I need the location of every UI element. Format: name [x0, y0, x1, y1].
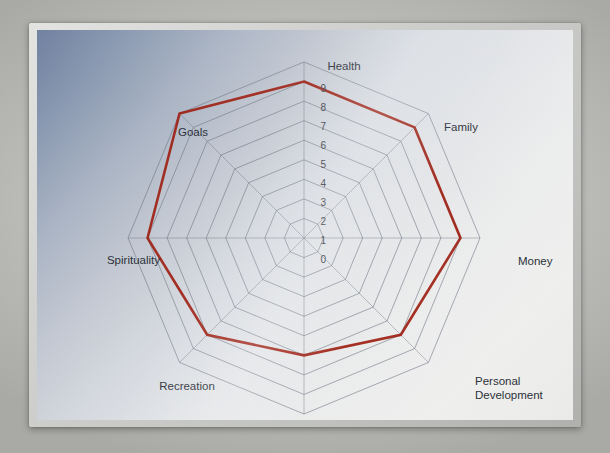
axis-label-personal: PersonalDevelopment — [475, 375, 544, 401]
axis-label-money: Money — [518, 255, 553, 267]
axis-label-goals: Goals — [178, 126, 208, 138]
radar-spokes — [128, 62, 480, 414]
tick-label-0: 0 — [320, 254, 326, 265]
axis-label-family: Family — [444, 121, 478, 133]
tick-label-7: 7 — [320, 121, 326, 132]
axis-label-recreation: Recreation — [159, 380, 215, 392]
axis-label-health: Health — [327, 60, 360, 72]
tick-label-5: 5 — [320, 159, 326, 170]
spoke-recreation — [180, 238, 304, 362]
tick-label-6: 6 — [320, 140, 326, 151]
tick-label-3: 3 — [320, 197, 326, 208]
tick-label-8: 8 — [320, 102, 326, 113]
screenshot-root: 9876543210 HealthFamilyMoneyPersonalDeve… — [0, 0, 610, 453]
radar-chart: 9876543210 HealthFamilyMoneyPersonalDeve… — [37, 30, 573, 420]
radar-tick-labels: 9876543210 — [320, 83, 326, 265]
tick-label-4: 4 — [320, 178, 326, 189]
tick-label-1: 1 — [320, 235, 326, 246]
chart-card-surface: 9876543210 HealthFamilyMoneyPersonalDeve… — [37, 30, 573, 420]
tick-label-9: 9 — [320, 83, 326, 94]
chart-card-frame: 9876543210 HealthFamilyMoneyPersonalDeve… — [29, 23, 581, 427]
tick-label-2: 2 — [320, 216, 326, 227]
radar-axis-labels: HealthFamilyMoneyPersonalDevelopmentCare… — [107, 60, 553, 420]
axis-label-spirituality: Spirituality — [107, 254, 160, 266]
